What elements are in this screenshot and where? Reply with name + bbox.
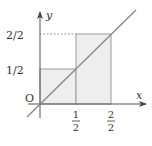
y-tick-label-half: 1/2 — [6, 64, 24, 77]
x-tick-half-numerator: 1 — [73, 109, 79, 120]
x-tick-label-half: 1 2 — [72, 109, 80, 133]
diagram-canvas: y x O 1/2 2/2 1 2 2 2 — [0, 0, 152, 146]
y-tick-label-one: 2/2 — [6, 29, 24, 42]
y-axis-label: y — [45, 9, 53, 22]
x-axis-label: x — [136, 89, 143, 102]
rect-second-step — [76, 34, 111, 104]
x-tick-one-denominator: 2 — [108, 122, 114, 133]
x-tick-half-denominator: 2 — [73, 122, 79, 133]
x-tick-one-numerator: 2 — [108, 109, 114, 120]
origin-label: O — [25, 92, 34, 105]
x-tick-label-one: 2 2 — [107, 109, 115, 133]
